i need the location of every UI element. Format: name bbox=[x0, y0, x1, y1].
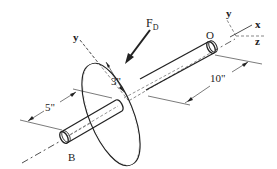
axis-y-label: y bbox=[226, 7, 232, 19]
dim-radius-label: 3" bbox=[111, 75, 121, 87]
force-label: FD bbox=[146, 16, 159, 32]
disk-y-label: y bbox=[73, 31, 79, 43]
point-o-label: O bbox=[206, 29, 214, 41]
axis-x-label: x bbox=[255, 18, 261, 30]
dim-right-label: 10" bbox=[210, 72, 226, 84]
diagram-canvas: 3" FD y O B x y z bbox=[0, 0, 277, 169]
shaft-diagram: 3" FD y O B x y z bbox=[0, 0, 277, 169]
shaft-right-segment bbox=[140, 39, 219, 90]
dim-left-label: 5" bbox=[45, 101, 55, 113]
axis-z-label: z bbox=[255, 35, 260, 47]
point-b-label: B bbox=[68, 151, 75, 163]
force-arrow bbox=[125, 30, 150, 64]
